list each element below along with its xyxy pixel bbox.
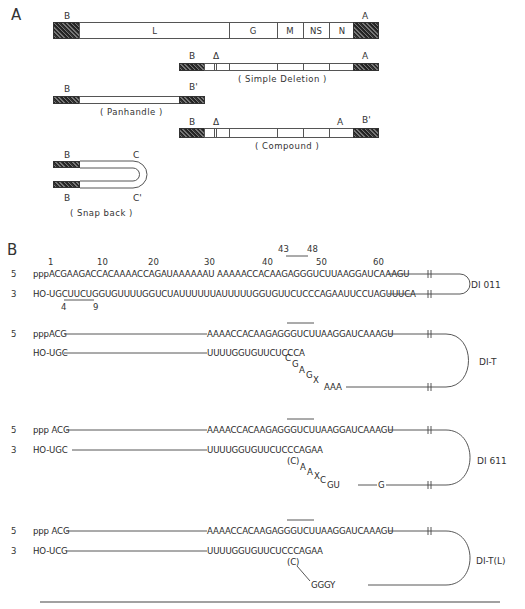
box-top-start: 43 bbox=[278, 244, 289, 254]
deletion-track bbox=[204, 63, 354, 71]
b-prime-terminus-block bbox=[179, 96, 205, 104]
simple-left-label: B bbox=[189, 51, 195, 61]
a-terminus-block bbox=[353, 22, 379, 39]
compound-caption: ( Compound ) bbox=[255, 141, 319, 151]
di611-bottom-prefix: HO-UGC bbox=[33, 445, 68, 455]
snapback-top-left-label: B bbox=[64, 150, 70, 160]
compound-left-label: B bbox=[189, 117, 195, 127]
simple-delta-label: Δ bbox=[213, 51, 219, 61]
pos-10: 10 bbox=[97, 257, 108, 267]
b-terminus-block bbox=[179, 63, 205, 71]
loop-base: A bbox=[300, 462, 306, 472]
di611-top-prefix: ppp ACG bbox=[33, 425, 69, 435]
dit-top-sequence: AAAACCACAAGAGGGUCUUAAGGAUCAAAGU bbox=[207, 329, 394, 339]
panhandle-track bbox=[79, 96, 180, 104]
loop-base: X bbox=[313, 375, 319, 385]
three-prime-label: 3 bbox=[11, 546, 16, 556]
ditl-top-prefix: ppp ACG bbox=[33, 526, 69, 536]
compound-right-label: B' bbox=[362, 115, 371, 125]
loop-base: C bbox=[320, 475, 326, 485]
box-bottom-start: 4 bbox=[61, 302, 66, 312]
gene-track: L G M NS N bbox=[79, 22, 354, 39]
compound-delta-label: Δ bbox=[213, 117, 219, 127]
di611-top-sequence: AAAACCACAAGAGGGUCUUAAGGAUCAAAGU bbox=[207, 425, 394, 435]
gene-l: L bbox=[80, 23, 229, 38]
loop-base: A bbox=[307, 467, 313, 477]
ditl-label: DI-T(L) bbox=[476, 556, 506, 566]
di611-loop-tail: GU bbox=[327, 480, 340, 490]
three-prime-label: 3 bbox=[11, 289, 16, 299]
ditl-top-sequence: AAAACCACAAGAGGGUCUUAAGGAUCAAAGU bbox=[207, 526, 394, 536]
ditl-loop-c: (C) bbox=[287, 557, 299, 567]
b-terminus-block bbox=[53, 181, 80, 188]
snapback-caption: ( Snap back ) bbox=[70, 208, 133, 218]
gene-n: N bbox=[329, 23, 355, 38]
box-top-end: 48 bbox=[307, 244, 318, 254]
pos-30: 30 bbox=[204, 257, 215, 267]
gene-ns: NS bbox=[303, 23, 329, 38]
b-prime-terminus-block bbox=[353, 128, 379, 138]
di611-bottom-sequence: UUUUGGUGUUCUCCCAGAA bbox=[207, 445, 323, 455]
five-prime-label: 5 bbox=[11, 269, 16, 279]
five-prime-label: 5 bbox=[11, 329, 16, 339]
b-terminus-block bbox=[53, 22, 80, 39]
compound-inner-label: A bbox=[337, 117, 343, 127]
loop-base: (C) bbox=[287, 456, 299, 466]
pos-1: 1 bbox=[48, 257, 53, 267]
loop-base: C bbox=[285, 353, 291, 363]
pos-50: 50 bbox=[316, 257, 327, 267]
dit-bottom-prefix: HO-UGC bbox=[33, 348, 68, 358]
standard-right-label: A bbox=[362, 11, 368, 21]
gene-g: G bbox=[229, 23, 277, 38]
di011-label: DI 011 bbox=[471, 280, 501, 290]
panel-a-label: A bbox=[11, 6, 21, 24]
box-bottom-end: 9 bbox=[93, 302, 98, 312]
loop-base: A bbox=[299, 365, 305, 375]
b-terminus-block bbox=[53, 96, 80, 104]
panhandle-left-label: B bbox=[64, 84, 70, 94]
snapback-bottom-left-label: B bbox=[64, 193, 70, 203]
loop-base: G bbox=[306, 370, 313, 380]
loop-base: G bbox=[292, 359, 299, 369]
simple-deletion-caption: ( Simple Deletion ) bbox=[238, 74, 327, 84]
loop-base: X bbox=[314, 471, 320, 481]
pos-60: 60 bbox=[373, 257, 384, 267]
a-terminus-block bbox=[353, 63, 379, 71]
panhandle-right-label: B' bbox=[189, 82, 198, 92]
b-terminus-block bbox=[53, 161, 80, 168]
pos-20: 20 bbox=[148, 257, 159, 267]
snapback-top-right-label: C bbox=[133, 150, 139, 160]
simple-right-label: A bbox=[362, 51, 368, 61]
gene-m: M bbox=[277, 23, 303, 38]
pos-40: 40 bbox=[262, 257, 273, 267]
di011-top-sequence: pppACGAAGACCACAAAACCAGAUAAAAAAU AAAAACCA… bbox=[33, 269, 410, 279]
b-terminus-block bbox=[179, 128, 205, 138]
dit-label: DI-T bbox=[479, 357, 497, 367]
compound-track bbox=[204, 128, 354, 138]
ditl-bottom-sequence: UUUUGGUGUUCUCCCAGAA bbox=[207, 546, 323, 556]
dit-loop-tail: AAA bbox=[324, 382, 342, 392]
panel-b-label: B bbox=[7, 241, 17, 259]
di011-bottom-sequence: HO-UGCUUCUGGUGUUUUGGUCUAUUUUUUAUUUUUGGUG… bbox=[33, 289, 416, 299]
five-prime-label: 5 bbox=[11, 526, 16, 536]
snapback-bottom-right-label: C' bbox=[133, 193, 142, 203]
ditl-bottom-prefix: HO-UCG bbox=[33, 546, 68, 556]
ditl-loop-tail: GGGY bbox=[311, 580, 335, 590]
standard-left-label: B bbox=[64, 11, 70, 21]
di611-loop-g: G bbox=[378, 480, 385, 490]
dit-top-prefix: pppACG bbox=[33, 329, 67, 339]
three-prime-label: 3 bbox=[11, 445, 16, 455]
panhandle-caption: ( Panhandle ) bbox=[100, 107, 163, 117]
panel-b-lines bbox=[0, 0, 525, 609]
di611-label: DI 611 bbox=[477, 456, 507, 466]
five-prime-label: 5 bbox=[11, 425, 16, 435]
